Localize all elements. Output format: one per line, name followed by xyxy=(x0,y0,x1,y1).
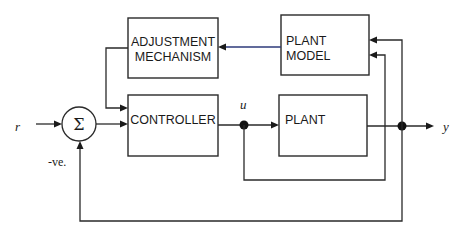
arrowhead-icon xyxy=(218,44,226,51)
arrowhead-icon xyxy=(54,121,62,128)
arrowhead-icon xyxy=(120,121,128,128)
wire-y-to-plant-model xyxy=(375,40,402,126)
control-signal-label: u xyxy=(240,97,247,112)
adjustment-mechanism-block: ADJUSTMENT MECHANISM xyxy=(128,18,218,78)
plant-model-label-line1: PLANT xyxy=(286,34,327,48)
plant-model-label-line2: MODEL xyxy=(286,49,331,63)
summing-junction: Σ xyxy=(62,107,96,141)
controller-label: CONTROLLER xyxy=(130,113,215,127)
output-signal-label: y xyxy=(441,119,449,134)
arrowhead-icon xyxy=(426,123,434,130)
adjustment-mechanism-label-line2: MECHANISM xyxy=(135,50,211,64)
arrowhead-icon xyxy=(120,105,128,112)
arrowhead-icon xyxy=(369,52,377,59)
adjustment-mechanism-label-line1: ADJUSTMENT xyxy=(131,35,215,49)
arrowhead-icon xyxy=(271,122,279,129)
arrowhead-icon xyxy=(77,141,84,149)
block-diagram: ADJUSTMENT MECHANISM PLANT MODEL CONTROL… xyxy=(0,0,464,235)
wire-adjust-to-controller xyxy=(106,48,128,108)
plant-block: PLANT xyxy=(279,95,367,156)
arrowhead-icon xyxy=(369,37,377,44)
sigma-symbol: Σ xyxy=(73,115,84,134)
plant-label: PLANT xyxy=(285,113,326,127)
reference-signal-label: r xyxy=(15,119,21,134)
plant-model-block: PLANT MODEL xyxy=(281,15,369,75)
negative-feedback-label: -ve. xyxy=(48,155,66,169)
controller-block: CONTROLLER xyxy=(128,95,218,156)
